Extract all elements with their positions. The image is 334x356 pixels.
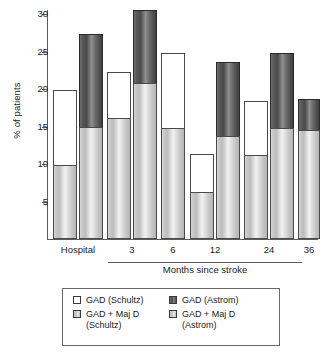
bar-3-schultz (107, 72, 131, 239)
bar-12-schultz (190, 154, 214, 240)
y-tick-label: 15 (26, 122, 48, 132)
y-tick-label-wrap: 5 (0, 197, 48, 207)
bar-segment-gad-majd-astrom (133, 83, 157, 239)
bar-segment-gad-majd-astrom (216, 136, 240, 239)
bar-segment-gad-majd-astrom (298, 130, 320, 240)
y-tick-label-wrap: 25 (0, 47, 48, 57)
bar-segment-gad-majd-schultz (107, 118, 131, 239)
legend-label: GAD + Maj D (Astrom) (182, 309, 235, 331)
legend-swatch-light-icon (169, 310, 177, 318)
bar-segment-gad-astrom (270, 53, 294, 129)
bar-6-schultz (161, 53, 185, 239)
y-tick-label: 10 (26, 159, 48, 169)
legend-swatch-dark-icon (169, 296, 177, 304)
bar-hospital-schultz (53, 90, 77, 239)
legend-item[interactable]: GAD (Schultz) (73, 295, 169, 306)
legend-swatch-open-icon (73, 296, 81, 304)
chart-container: % of patients 30252015105 Hospital361224… (0, 0, 334, 356)
y-tick-label-wrap: 30 (0, 9, 48, 19)
legend-item[interactable]: GAD (Astrom) (169, 295, 273, 306)
x-axis-title: Months since stroke (108, 264, 302, 275)
bar-segment-gad-astrom (79, 34, 103, 128)
legend-label: GAD + Maj D (Schultz) (86, 309, 139, 331)
bar-24-schultz (244, 101, 268, 239)
bar-3-astrom (133, 10, 157, 240)
legend-label: GAD (Schultz) (86, 295, 144, 306)
y-tick-label: 30 (26, 9, 48, 19)
y-tick-label: 5 (26, 197, 48, 207)
bar-hospital-astrom (79, 34, 103, 239)
bar-segment-gad-astrom (216, 62, 240, 137)
bar-12-astrom (216, 62, 240, 239)
bar-segment-gad-majd-schultz (190, 192, 214, 239)
bar-segment-gad-astrom (298, 99, 320, 131)
y-tick-label-wrap: 15 (0, 122, 48, 132)
bar-segment-gad-majd-schultz (53, 165, 77, 239)
months-axis-rule (108, 262, 302, 263)
bar-segment-gad-schultz (107, 72, 131, 120)
legend-label: GAD (Astrom) (182, 295, 239, 306)
y-axis-title: % of patients (11, 56, 22, 166)
x-tick-label-36: 36 (269, 244, 334, 256)
bar-24-astrom (270, 53, 294, 239)
bar-segment-gad-majd-schultz (161, 128, 185, 239)
bar-segment-gad-schultz (244, 101, 268, 156)
bar-segment-gad-majd-astrom (270, 128, 294, 239)
legend-item[interactable]: GAD + Maj D (Astrom) (169, 309, 273, 331)
legend-item[interactable]: GAD + Maj D (Schultz) (73, 309, 169, 331)
bar-segment-gad-schultz (161, 53, 185, 129)
y-tick-label: 20 (26, 84, 48, 94)
y-tick-label-wrap: 10 (0, 159, 48, 169)
y-tick-label: 25 (26, 47, 48, 57)
bar-segment-gad-schultz (53, 90, 77, 166)
legend-swatch-light-icon (73, 310, 81, 318)
bar-segment-gad-majd-astrom (79, 127, 103, 239)
bar-segment-gad-schultz (190, 154, 214, 193)
x-axis-line (47, 239, 318, 240)
chart-legend: GAD (Schultz)GAD (Astrom)GAD + Maj D (Sc… (62, 288, 280, 346)
bar-segment-gad-astrom (133, 10, 157, 85)
bar-segment-gad-majd-schultz (244, 155, 268, 239)
y-tick-label-wrap: 20 (0, 84, 48, 94)
bar-36-astrom (298, 99, 320, 239)
